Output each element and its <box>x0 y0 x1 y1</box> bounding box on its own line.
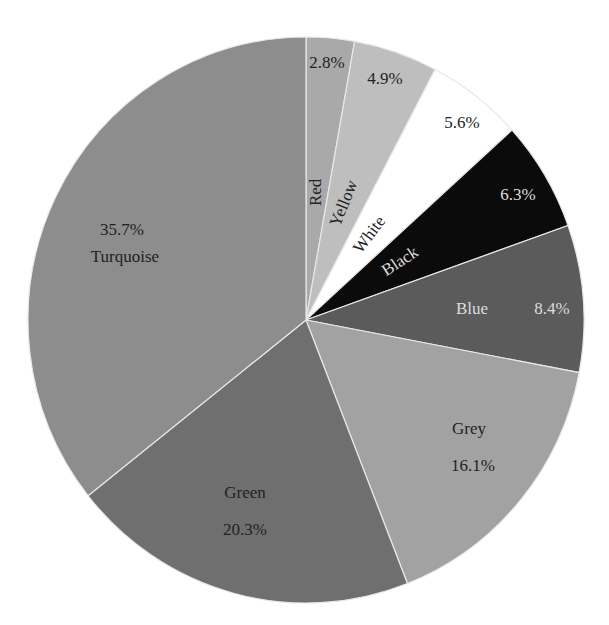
slice-percent-blue: 8.4% <box>534 299 569 318</box>
slice-percent-red: 2.8% <box>309 53 344 72</box>
slice-label-blue: Blue <box>456 299 488 318</box>
slice-percent-black: 6.3% <box>500 185 535 204</box>
slice-percent-turquoise: 35.7% <box>100 220 144 239</box>
slice-label-red: Red <box>306 178 325 206</box>
slice-percent-yellow: 4.9% <box>367 69 402 88</box>
slice-percent-grey: 16.1% <box>451 456 495 475</box>
slice-percent-green: 20.3% <box>223 520 267 539</box>
slice-label-green: Green <box>224 483 266 502</box>
pie-chart: Red2.8%Yellow4.9%White5.6%Black6.3%Blue8… <box>0 0 609 625</box>
slice-label-turquoise: Turquoise <box>91 247 159 266</box>
slice-percent-white: 5.6% <box>444 113 479 132</box>
slice-label-grey: Grey <box>452 419 486 438</box>
